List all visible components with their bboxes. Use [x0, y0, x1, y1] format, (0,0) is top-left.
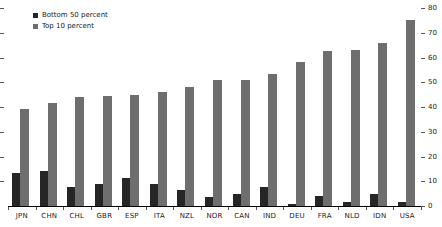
y-axis-tick-left: [0, 157, 4, 158]
y-axis-tick-right: [421, 206, 425, 207]
bar-group-esp: [118, 8, 146, 206]
x-axis-tick: [63, 207, 64, 210]
bar-top10-gbr: [103, 96, 112, 206]
bar-bottom50-esp: [122, 178, 130, 206]
x-axis-tick: [201, 207, 202, 210]
x-tick-label-nor: NOR: [201, 212, 229, 220]
x-tick-label-ind: IND: [256, 212, 284, 220]
x-tick-label-chl: CHL: [63, 212, 91, 220]
y-tick-label-80: 80: [428, 4, 441, 12]
legend-label-bottom-50: Bottom 50 percent: [42, 10, 108, 21]
x-axis-tick: [283, 207, 284, 210]
y-tick-label-70: 70: [428, 29, 441, 37]
bar-top10-nor: [213, 80, 222, 206]
bar-bottom50-idn: [370, 194, 378, 206]
x-tick-label-fra: FRA: [311, 212, 339, 220]
x-axis-tick: [118, 207, 119, 210]
bar-bottom50-nzl: [177, 190, 185, 206]
legend-item-top-10: Top 10 percent: [33, 21, 108, 32]
y-tick-label-20: 20: [428, 153, 441, 161]
y-axis-tick-right: [421, 157, 425, 158]
bar-group-can: [228, 8, 256, 206]
bar-top10-esp: [130, 95, 139, 206]
x-axis-tick: [421, 207, 422, 210]
bar-bottom50-chl: [67, 187, 75, 206]
x-axis-tick: [36, 207, 37, 210]
bar-bottom50-gbr: [95, 184, 103, 206]
y-axis-tick-left: [0, 181, 4, 182]
bar-bottom50-chn: [40, 171, 48, 206]
y-tick-label-0: 0: [428, 202, 441, 210]
y-axis-tick-right: [421, 82, 425, 83]
bar-top10-idn: [378, 43, 387, 206]
bar-top10-fra: [323, 51, 332, 206]
x-tick-label-usa: USA: [393, 212, 421, 220]
plot-area: [8, 8, 421, 206]
legend-label-top-10: Top 10 percent: [42, 21, 94, 32]
x-tick-label-gbr: GBR: [91, 212, 119, 220]
y-axis-tick-right: [421, 58, 425, 59]
y-axis-tick-left: [0, 33, 4, 34]
y-tick-label-40: 40: [428, 103, 441, 111]
x-axis-tick: [8, 207, 9, 210]
y-axis-tick-right: [421, 33, 425, 34]
y-tick-label-60: 60: [428, 54, 441, 62]
bar-group-gbr: [91, 8, 119, 206]
x-axis-tick: [393, 207, 394, 210]
x-tick-label-can: CAN: [228, 212, 256, 220]
y-axis-tick-right: [421, 132, 425, 133]
wealth-share-bar-chart: Bottom 50 percent Top 10 percent JPNCHNC…: [0, 0, 442, 227]
y-axis-tick-right: [421, 8, 425, 9]
x-tick-label-nzl: NZL: [173, 212, 201, 220]
x-axis-tick: [91, 207, 92, 210]
x-tick-label-nld: NLD: [338, 212, 366, 220]
bar-bottom50-ita: [150, 184, 158, 206]
bar-group-nld: [338, 8, 366, 206]
x-tick-label-jpn: JPN: [8, 212, 36, 220]
chart-legend: Bottom 50 percent Top 10 percent: [33, 10, 108, 32]
legend-swatch-bottom-50: [33, 13, 38, 18]
y-tick-label-50: 50: [428, 78, 441, 86]
x-tick-label-chn: CHN: [36, 212, 64, 220]
bar-bottom50-ind: [260, 187, 268, 206]
y-axis-tick-right: [421, 181, 425, 182]
y-axis-tick-left: [0, 82, 4, 83]
bar-group-nzl: [173, 8, 201, 206]
y-tick-label-30: 30: [428, 128, 441, 136]
y-axis-tick-left: [0, 132, 4, 133]
y-axis-tick-left: [0, 8, 4, 9]
bar-group-idn: [366, 8, 394, 206]
bar-top10-ind: [268, 74, 277, 206]
bar-top10-deu: [296, 62, 305, 206]
x-axis-tick: [311, 207, 312, 210]
bar-top10-chn: [48, 103, 57, 206]
bar-top10-jpn: [20, 109, 29, 206]
y-axis-tick-left: [0, 58, 4, 59]
bar-bottom50-nor: [205, 197, 213, 206]
legend-item-bottom-50: Bottom 50 percent: [33, 10, 108, 21]
x-tick-label-esp: ESP: [118, 212, 146, 220]
bar-top10-usa: [406, 20, 415, 206]
bar-top10-nld: [351, 50, 360, 206]
x-axis-tick: [366, 207, 367, 210]
legend-swatch-top-10: [33, 24, 38, 29]
x-axis-tick: [256, 207, 257, 210]
x-tick-label-ita: ITA: [146, 212, 174, 220]
x-axis-tick: [338, 207, 339, 210]
bar-bottom50-jpn: [12, 173, 20, 206]
bar-top10-nzl: [185, 87, 194, 206]
x-axis-tick: [146, 207, 147, 210]
bar-group-fra: [311, 8, 339, 206]
bar-top10-ita: [158, 92, 167, 206]
y-tick-label-10: 10: [428, 177, 441, 185]
x-tick-label-idn: IDN: [366, 212, 394, 220]
bar-group-chl: [63, 8, 91, 206]
x-axis-tick: [228, 207, 229, 210]
x-tick-label-deu: DEU: [283, 212, 311, 220]
bar-group-usa: [393, 8, 421, 206]
bar-group-jpn: [8, 8, 36, 206]
x-axis-tick: [173, 207, 174, 210]
bar-group-nor: [201, 8, 229, 206]
y-axis-tick-left: [0, 107, 4, 108]
x-axis-line: [8, 206, 422, 207]
